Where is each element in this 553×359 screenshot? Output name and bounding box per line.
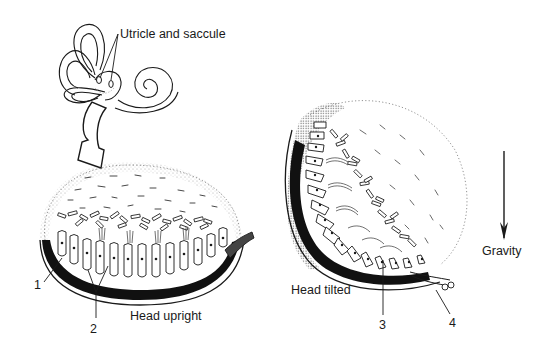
callout-1: 1: [34, 279, 41, 292]
callout-2: 2: [90, 323, 97, 336]
head-tilted-caption: Head tilted: [291, 284, 351, 297]
utricle-saccule-label: Utricle and saccule: [120, 28, 226, 41]
gravity-arrow-icon: [500, 151, 508, 240]
gravity-label: Gravity: [482, 245, 522, 258]
head-upright-caption: Head upright: [130, 310, 202, 323]
callout-4: 4: [449, 317, 456, 330]
otolith-diagram: Utricle and saccule Head upright 1 2 Hea…: [0, 0, 553, 359]
otolith-upright: [40, 162, 254, 318]
callout-3: 3: [379, 319, 386, 332]
zoom-arrow-icon: [78, 102, 106, 168]
diagram-artwork: [0, 0, 553, 359]
